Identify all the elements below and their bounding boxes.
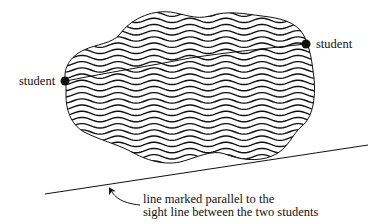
- hatch-wave: [55, 161, 325, 165]
- hatch-wave: [55, 130, 325, 134]
- hatch-wave: [55, 124, 325, 128]
- hatch-wave: [55, 99, 325, 103]
- lake-diagram: student student line marked parallel to …: [0, 0, 381, 224]
- hatch-wave: [55, 117, 325, 121]
- hatch-wave: [55, 49, 325, 53]
- student-right-marker: [302, 40, 311, 49]
- student-left-label: student: [19, 74, 56, 88]
- student-left-marker: [61, 77, 70, 86]
- pointer-arrow-icon: [110, 189, 140, 205]
- hatch-wave: [55, 74, 325, 78]
- hatch-wave: [55, 86, 325, 90]
- hatch-wave: [55, 24, 325, 28]
- caption-line-2: sight line between the two students: [143, 205, 318, 219]
- hatch-wave: [55, 6, 325, 10]
- hatch-wave: [55, 142, 325, 146]
- caption-line-1: line marked parallel to the: [143, 192, 275, 206]
- hatch-wave: [55, 62, 325, 66]
- hatch-wave: [55, 155, 325, 159]
- hatch-wave: [55, 80, 325, 84]
- hatch-wave: [55, 148, 325, 152]
- hatch-wave: [55, 111, 325, 115]
- hatch-wave: [55, 93, 325, 97]
- lake-hatching: [55, 6, 325, 165]
- student-right-label: student: [316, 37, 353, 51]
- hatch-wave: [55, 31, 325, 35]
- hatch-wave: [55, 37, 325, 41]
- hatch-wave: [55, 68, 325, 72]
- hatch-wave: [55, 105, 325, 109]
